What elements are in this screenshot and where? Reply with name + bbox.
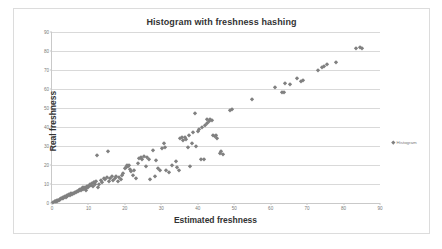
legend-label: Histogram	[397, 140, 417, 145]
scatter-point	[301, 78, 305, 82]
x-tick-mark	[343, 203, 344, 205]
y-axis-title: Real freshness	[48, 91, 58, 151]
scatter-point	[283, 81, 287, 85]
x-tick-label: 90	[377, 206, 382, 211]
gridline	[52, 146, 380, 147]
scatter-point	[132, 168, 136, 172]
x-tick-label: 60	[268, 206, 273, 211]
x-tick-label: 0	[51, 206, 54, 211]
scatter-point	[190, 141, 194, 145]
scatter-point	[167, 170, 171, 174]
x-tick-mark	[88, 203, 89, 205]
scatter-point	[193, 111, 197, 115]
scatter-point	[334, 60, 338, 64]
x-tick-mark	[124, 203, 125, 205]
y-tick-mark	[50, 165, 52, 166]
gridline	[52, 108, 380, 109]
y-tick-mark	[50, 51, 52, 52]
y-tick-label: 90	[44, 30, 49, 35]
y-tick-mark	[50, 184, 52, 185]
gridline	[52, 127, 380, 128]
scatter-point	[221, 152, 225, 156]
y-tick-mark	[50, 70, 52, 71]
scatter-point	[360, 46, 364, 50]
scatter-point	[289, 82, 293, 86]
plot-area: 01020304050607080900102030405060708090	[51, 32, 380, 204]
scatter-point	[273, 85, 277, 89]
chart-container: Histogram with freshness hashing 0102030…	[13, 8, 430, 234]
scatter-point	[230, 107, 234, 111]
y-tick-label: 10	[44, 182, 49, 187]
x-tick-mark	[234, 203, 235, 205]
y-tick-mark	[50, 32, 52, 33]
scatter-point	[216, 136, 220, 140]
chart-legend: Histogram	[392, 140, 417, 145]
scatter-point	[174, 159, 178, 163]
scatter-point	[186, 145, 190, 149]
x-tick-label: 30	[159, 206, 164, 211]
scatter-point	[122, 171, 126, 175]
scatter-point	[95, 153, 99, 157]
legend-marker-icon	[391, 141, 395, 145]
y-tick-label: 80	[44, 49, 49, 54]
scatter-point	[295, 76, 299, 80]
scatter-point	[194, 144, 198, 148]
y-tick-label: 0	[46, 201, 49, 206]
gridline	[52, 184, 380, 185]
gridline	[52, 89, 380, 90]
scatter-point	[154, 158, 158, 162]
x-tick-label: 70	[305, 206, 310, 211]
x-tick-label: 80	[341, 206, 346, 211]
scatter-point	[202, 157, 206, 161]
x-axis-title: Estimated freshness	[51, 215, 380, 225]
x-tick-label: 20	[122, 206, 127, 211]
scatter-point	[134, 176, 138, 180]
scatter-point	[187, 133, 191, 137]
scatter-point	[147, 157, 151, 161]
x-tick-mark	[161, 203, 162, 205]
scatter-point	[106, 149, 110, 153]
scatter-point	[131, 173, 135, 177]
scatter-point	[251, 97, 255, 101]
gridline	[52, 165, 380, 166]
gridline	[52, 32, 380, 33]
scatter-point	[158, 168, 162, 172]
x-tick-mark	[307, 203, 308, 205]
scatter-point	[170, 163, 174, 167]
scatter-point	[149, 177, 153, 181]
gridline	[52, 70, 380, 71]
scatter-point	[177, 168, 181, 172]
x-tick-label: 10	[86, 206, 91, 211]
x-tick-mark	[197, 203, 198, 205]
scatter-point	[282, 90, 286, 94]
scatter-point	[184, 137, 188, 141]
y-tick-mark	[50, 89, 52, 90]
scatter-point	[153, 174, 157, 178]
scatter-point	[163, 145, 167, 149]
y-tick-label: 70	[44, 68, 49, 73]
gridline	[52, 51, 380, 52]
scatter-point	[151, 148, 155, 152]
chart-title: Histogram with freshness hashing	[14, 17, 429, 27]
x-tick-mark	[270, 203, 271, 205]
x-tick-label: 40	[195, 206, 200, 211]
scatter-point	[192, 130, 196, 134]
x-tick-label: 50	[232, 206, 237, 211]
x-tick-mark	[380, 203, 381, 205]
y-tick-label: 20	[44, 163, 49, 168]
